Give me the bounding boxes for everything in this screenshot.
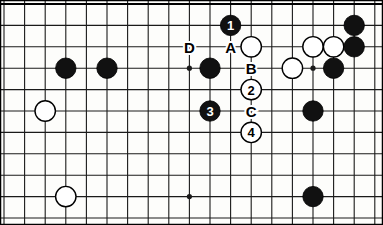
stone-black[interactable] — [344, 37, 364, 57]
stone-white[interactable] — [323, 37, 343, 57]
point-label-d: D — [184, 39, 195, 56]
black-stone-disc[interactable] — [344, 37, 364, 57]
black-stone-disc[interactable] — [200, 58, 220, 78]
white-stone-disc[interactable] — [323, 37, 343, 57]
star-point — [187, 194, 192, 199]
star-point — [310, 66, 315, 71]
stone-move-number: 3 — [206, 104, 213, 119]
white-stone-disc[interactable] — [56, 186, 76, 206]
stone-black-move-3[interactable]: 3 — [200, 101, 220, 121]
stone-white[interactable] — [241, 37, 261, 57]
go-board-canvas: 1324 DDAABBCC — [0, 0, 383, 225]
stone-move-number: 1 — [227, 18, 234, 33]
go-board-diagram: 1324 DDAABBCC — [0, 0, 383, 225]
white-stone-disc[interactable] — [35, 101, 55, 121]
stone-white-move-2[interactable]: 2 — [241, 79, 261, 99]
point-label-c: C — [246, 103, 257, 120]
star-point — [187, 66, 192, 71]
black-stone-disc[interactable] — [97, 58, 117, 78]
stone-black-move-1[interactable]: 1 — [220, 15, 240, 35]
stone-black[interactable] — [97, 58, 117, 78]
stone-white[interactable] — [303, 37, 323, 57]
stone-white-move-4[interactable]: 4 — [241, 122, 261, 142]
black-stone-disc[interactable] — [323, 58, 343, 78]
stone-white[interactable] — [56, 186, 76, 206]
white-stone-disc[interactable] — [303, 37, 323, 57]
stone-white[interactable] — [35, 101, 55, 121]
stone-black[interactable] — [200, 58, 220, 78]
black-stone-disc[interactable] — [56, 58, 76, 78]
stone-black[interactable] — [303, 101, 323, 121]
stone-black[interactable] — [344, 15, 364, 35]
stone-black[interactable] — [303, 186, 323, 206]
black-stone-disc[interactable] — [344, 15, 364, 35]
stone-move-number: 4 — [248, 125, 256, 140]
stone-black[interactable] — [56, 58, 76, 78]
stone-white[interactable] — [282, 58, 302, 78]
point-label-b: B — [246, 60, 257, 77]
black-stone-disc[interactable] — [303, 101, 323, 121]
black-stone-disc[interactable] — [303, 186, 323, 206]
stone-black[interactable] — [323, 58, 343, 78]
white-stone-disc[interactable] — [241, 37, 261, 57]
point-label-a: A — [225, 39, 236, 56]
stone-move-number: 2 — [248, 83, 255, 98]
white-stone-disc[interactable] — [282, 58, 302, 78]
